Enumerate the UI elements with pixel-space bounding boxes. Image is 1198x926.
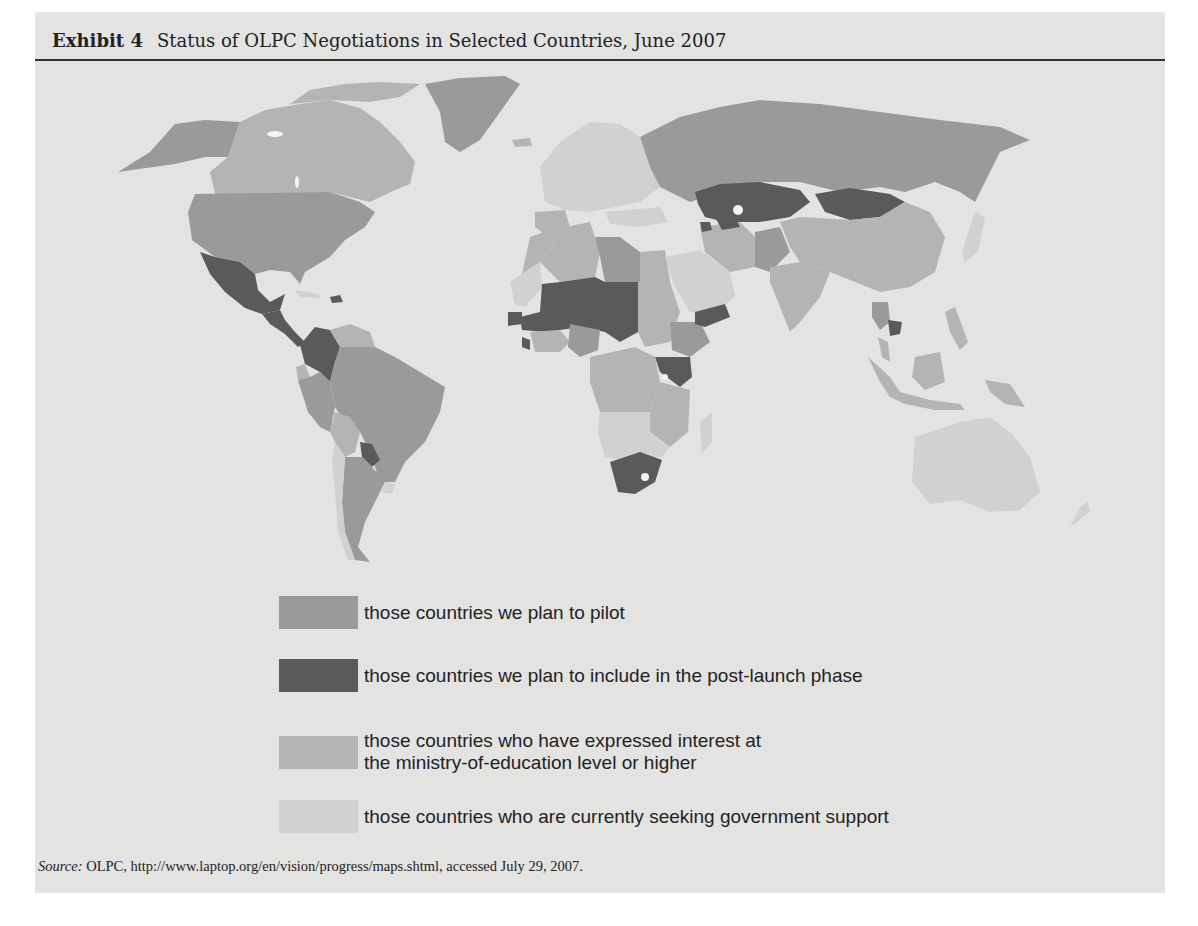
legend-item-seeking-support: those countries who are currently seekin…: [279, 800, 889, 833]
lake-winnipeg: [295, 176, 299, 188]
region-west-africa: [530, 330, 570, 352]
region-australia: [912, 417, 1040, 512]
lake-victoria: [662, 374, 668, 380]
legend-text-line1: those countries who have expressed inter…: [364, 730, 761, 752]
legend-text-seeking-support: those countries who are currently seekin…: [364, 806, 889, 828]
region-madagascar: [700, 412, 712, 454]
region-thailand: [872, 302, 890, 330]
region-malaysia: [878, 337, 890, 362]
exhibit-title: Status of OLPC Negotiations in Selected …: [157, 30, 726, 51]
region-libya: [595, 237, 640, 282]
legend-text-line2: the ministry-of-education level or highe…: [364, 752, 761, 774]
legend-item-post-launch: those countries we plan to include in th…: [279, 659, 863, 692]
world-map: [35, 72, 1165, 572]
region-cambodia: [888, 320, 902, 336]
region-canada: [210, 100, 415, 202]
region-central-africa: [590, 347, 660, 422]
legend-swatch-seeking-support: [279, 800, 358, 833]
legend-text-post-launch: those countries we plan to include in th…: [364, 665, 863, 687]
region-turkey: [605, 207, 668, 227]
legend-swatch-post-launch: [279, 659, 358, 692]
lake-great-bear: [267, 131, 283, 137]
region-senegal: [508, 312, 522, 326]
legend-swatch-expressed-interest: [279, 736, 358, 769]
legend-text-expressed-interest: those countries who have expressed inter…: [364, 730, 761, 774]
source-label: Source:: [38, 858, 83, 874]
region-cuba: [295, 290, 322, 298]
region-india: [770, 262, 830, 332]
region-greenland: [425, 76, 520, 152]
region-kazakhstan: [695, 182, 810, 222]
region-iceland: [512, 138, 532, 147]
source-text: OLPC, http://www.laptop.org/en/vision/pr…: [83, 858, 583, 874]
region-europe: [540, 122, 660, 212]
region-philippines: [945, 307, 968, 350]
lake-aral: [733, 205, 743, 215]
exhibit-panel: Exhibit 4 Status of OLPC Negotiations in…: [35, 12, 1165, 893]
header-divider: [35, 59, 1165, 61]
region-japan: [962, 212, 985, 262]
region-russia: [640, 100, 1030, 202]
region-central-america: [262, 310, 305, 347]
exhibit-header: Exhibit 4 Status of OLPC Negotiations in…: [52, 20, 1165, 60]
legend-swatch-pilot: [279, 596, 358, 629]
region-haiti: [330, 295, 343, 303]
exhibit-label: Exhibit 4: [52, 30, 143, 51]
region-ethiopia: [670, 322, 710, 357]
region-sierra-leone: [522, 337, 530, 350]
legend-text-pilot: those countries we plan to pilot: [364, 602, 625, 624]
legend-item-expressed-interest: those countries who have expressed inter…: [279, 730, 761, 774]
legend-item-pilot: those countries we plan to pilot: [279, 596, 625, 629]
region-papua-new-guinea: [985, 380, 1025, 407]
region-borneo: [912, 352, 945, 390]
lesotho: [641, 473, 649, 481]
region-canadian-arctic: [290, 82, 420, 104]
source-note: Source: OLPC, http://www.laptop.org/en/v…: [38, 858, 583, 875]
region-egypt: [640, 250, 670, 282]
region-new-zealand: [1070, 502, 1090, 527]
